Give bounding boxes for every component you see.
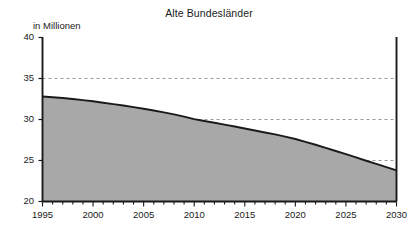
x-tick-label-2010: 2010 [174,209,214,220]
y-tick-label-30: 30 [8,113,34,124]
y-tick-label-40: 40 [8,31,34,42]
data-area-series [43,97,397,202]
x-tick-label-1995: 1995 [23,209,63,220]
y-tick-label-25: 25 [8,154,34,165]
x-tick-label-2030: 2030 [377,209,417,220]
y-tick-label-35: 35 [8,72,34,83]
chart-figure: Alte Bundesländer in Millionen 202530354… [0,0,418,240]
x-tick-label-2015: 2015 [225,209,265,220]
series-area-fill [43,97,397,202]
x-tick-label-2020: 2020 [275,209,315,220]
x-tick-label-2025: 2025 [326,209,366,220]
x-tick-label-2005: 2005 [124,209,164,220]
x-tick-label-2000: 2000 [73,209,113,220]
plot-canvas [0,0,418,240]
y-tick-label-20: 20 [8,195,34,206]
